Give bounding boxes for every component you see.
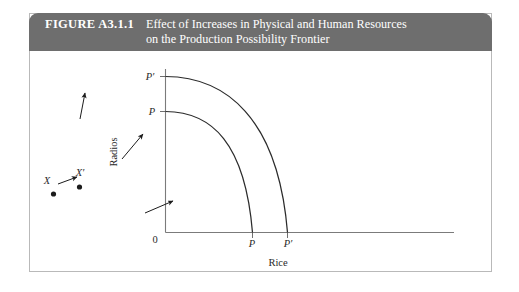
shift-arrow-lower-icon bbox=[145, 201, 173, 213]
figure-container: FIGURE A3.1.1 Effect of Increases in Phy… bbox=[0, 0, 519, 292]
x-axis-label-p: P bbox=[248, 238, 256, 249]
y-axis-label-p: P bbox=[148, 106, 156, 117]
ppf-curves bbox=[166, 77, 288, 233]
ppf-chart-svg: P′ P 0 P P′ X X′ Rice Radios bbox=[29, 51, 492, 272]
chart-axes bbox=[166, 69, 455, 233]
ppf-curve-expanded bbox=[166, 77, 288, 233]
plot-area: P′ P 0 P P′ X X′ Rice Radios bbox=[29, 51, 492, 272]
data-point-x bbox=[51, 191, 56, 196]
x-axis-title: Rice bbox=[268, 257, 288, 268]
chart-ticks bbox=[160, 77, 288, 239]
data-points bbox=[51, 184, 82, 196]
y-axis-title: Radios bbox=[108, 137, 119, 166]
data-point-x-label: X bbox=[43, 175, 51, 186]
shift-arrow-upper-icon bbox=[80, 93, 85, 119]
origin-label: 0 bbox=[152, 234, 157, 245]
figure-title-line-2: on the Production Possibility Frontier bbox=[146, 32, 330, 47]
shift-arrow-middle-icon bbox=[122, 134, 143, 159]
figure-title-line-1: Effect of Increases in Physical and Huma… bbox=[146, 17, 407, 32]
data-point-x-prime-label: X′ bbox=[75, 167, 85, 178]
data-point-x-prime bbox=[77, 184, 82, 189]
figure-number-label: FIGURE A3.1.1 bbox=[45, 17, 134, 32]
point-shift-arrow-icon bbox=[58, 177, 77, 184]
y-axis-label-pprime: P′ bbox=[145, 71, 155, 82]
figure-header-banner: FIGURE A3.1.1 Effect of Increases in Phy… bbox=[29, 13, 492, 51]
chart-labels: P′ P 0 P P′ X X′ Rice Radios bbox=[43, 71, 293, 268]
ppf-curve-original bbox=[166, 112, 253, 233]
x-axis-label-pprime: P′ bbox=[283, 238, 293, 249]
